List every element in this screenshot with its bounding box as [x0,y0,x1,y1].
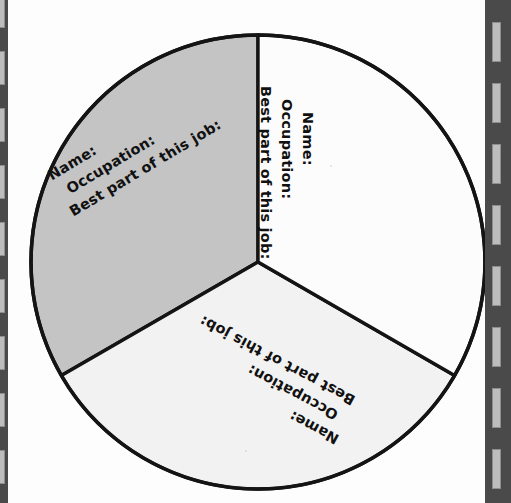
binding-tick [492,144,501,184]
binding-tick [492,449,501,489]
binding-tick [0,0,5,28]
right-binding-strip [485,0,511,503]
binding-tick [0,393,5,427]
right-occupation-label: Occupation: [276,86,297,260]
scan-speckle [330,165,332,167]
left-binding-strip [0,0,8,503]
binding-tick [492,266,501,306]
binding-tick [0,165,5,199]
pie-wheel: Name: Occupation: Best part of this job:… [0,0,511,503]
binding-tick [0,336,5,370]
binding-tick [492,83,501,123]
binding-tick [0,279,5,313]
binding-tick [0,222,5,256]
right-segment-prompts: Name: Occupation: Best part of this job: [255,86,318,260]
binding-tick [492,388,501,428]
scan-speckle [188,258,191,261]
right-best-part-label: Best part of this job: [255,86,276,260]
scan-speckle [245,450,247,452]
binding-tick [492,22,501,62]
right-name-label: Name: [297,86,318,260]
worksheet-page: Name: Occupation: Best part of this job:… [0,0,511,503]
binding-tick [0,450,5,484]
binding-tick [492,327,501,367]
binding-tick [0,108,5,142]
binding-tick [492,205,501,245]
binding-tick [0,51,5,85]
